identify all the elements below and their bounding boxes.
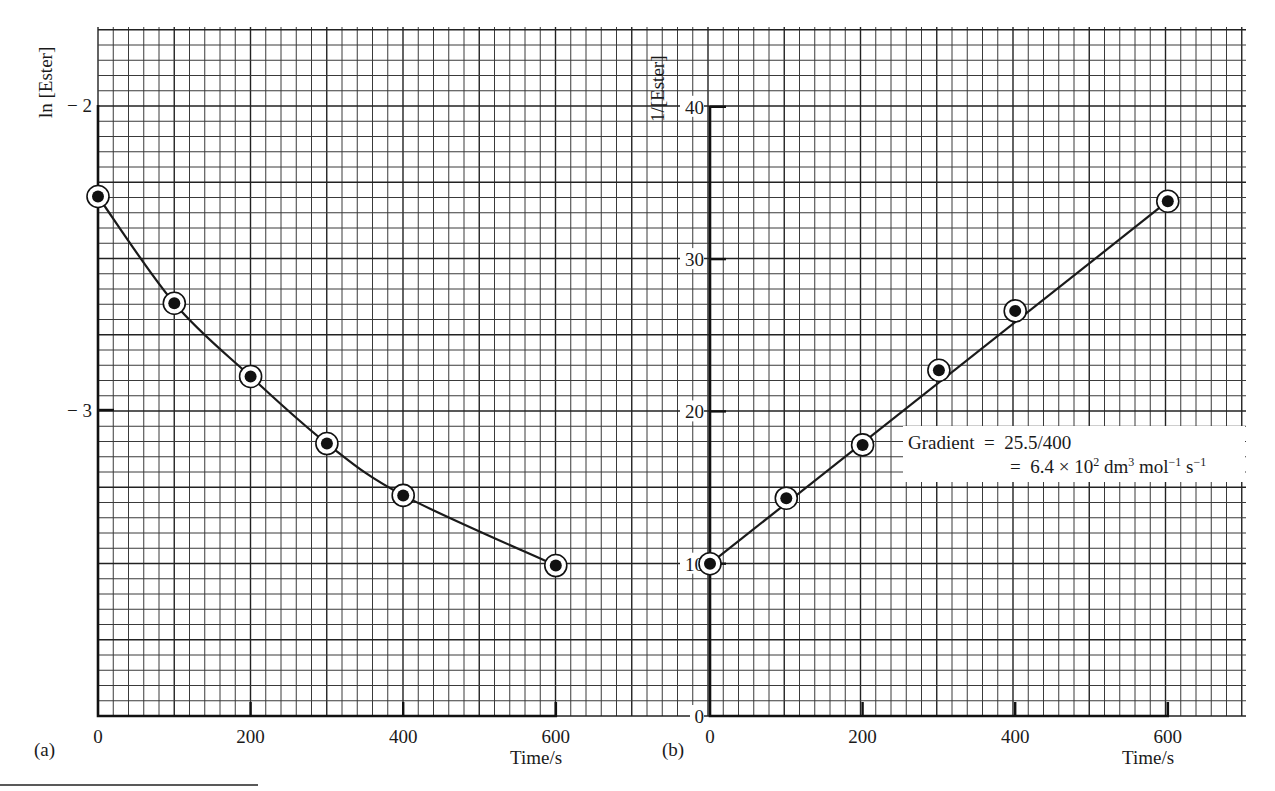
x-axis-label-a: Time/s	[510, 747, 562, 768]
fit-line	[710, 201, 1168, 563]
data-point-marker	[316, 433, 338, 455]
y-axis-label-a: ln [Ester]	[35, 47, 56, 118]
x-tick-label: 0	[93, 726, 103, 747]
x-tick-label: 600	[1154, 726, 1183, 747]
chart-panel-a: 0200400600− 2− 3	[58, 94, 570, 747]
graph-paper-figure: 0200400600− 2− 3 0200400600010203040 Gra…	[0, 0, 1275, 791]
x-tick-label: 0	[705, 726, 715, 747]
gradient-annotation: Gradient = 25.5/400 = 6.4 × 102 dm3 mol−…	[903, 426, 1245, 482]
x-axis-label-b: Time/s	[1122, 747, 1174, 768]
x-tick-label: 200	[236, 726, 265, 747]
data-point-marker	[928, 359, 950, 381]
data-point-marker	[1157, 190, 1179, 212]
gradient-line-1: Gradient = 25.5/400	[908, 432, 1071, 453]
data-point-marker	[392, 484, 414, 506]
figure: 0200400600− 2− 3 0200400600010203040 Gra…	[0, 0, 1275, 791]
y-axis-label-b: 1/[Ester]	[647, 56, 668, 122]
data-point-marker	[163, 292, 185, 314]
x-tick-label: 200	[848, 726, 877, 747]
data-point-marker	[852, 434, 874, 456]
data-point-marker	[699, 553, 721, 575]
y-tick-label: 0	[695, 706, 705, 727]
y-tick-label: 30	[685, 249, 704, 270]
data-point-marker	[240, 365, 262, 387]
panel-label-a: (a)	[34, 739, 55, 761]
y-tick-label: 20	[685, 401, 704, 422]
y-tick-label: − 2	[67, 95, 92, 116]
y-tick-label: 40	[685, 97, 704, 118]
grid-paper	[98, 27, 1246, 716]
x-tick-label: 400	[1001, 726, 1030, 747]
x-tick-label: 600	[542, 726, 571, 747]
chart-panel-b: 0200400600010203040	[680, 96, 1182, 747]
data-point-marker	[775, 487, 797, 509]
x-tick-label: 400	[389, 726, 418, 747]
data-point-marker	[1004, 300, 1026, 322]
data-point-marker	[545, 555, 567, 577]
y-tick-label: − 3	[67, 400, 92, 421]
data-point-marker	[87, 186, 109, 208]
panel-label-b: (b)	[662, 739, 684, 761]
